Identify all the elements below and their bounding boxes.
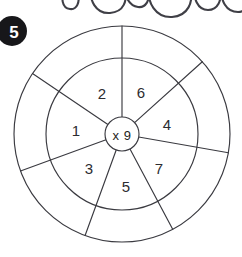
worksheet-page: x 9 1 2 6 4 7 5 3 5 — [0, 0, 242, 257]
question-number-badge: 5 — [0, 0, 242, 257]
badge-number: 5 — [9, 23, 18, 42]
